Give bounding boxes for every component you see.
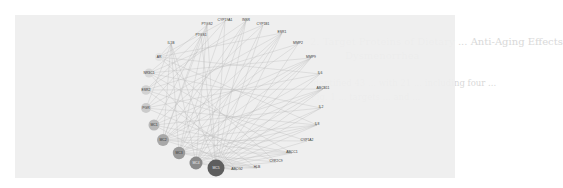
network-node-label: IL2 — [319, 105, 324, 109]
network-node-label: IL8 — [315, 122, 320, 126]
node-label: NR3C1 — [143, 71, 154, 75]
network-edge — [216, 141, 307, 168]
node-label: MC4 — [192, 161, 199, 165]
node-label: PGR — [142, 106, 150, 110]
network-edge — [179, 58, 311, 153]
network-edge — [179, 89, 323, 153]
network-edge — [216, 125, 317, 168]
network-edge — [163, 21, 246, 140]
network-edge — [146, 90, 257, 168]
network-node-label: ABCC1 — [286, 150, 297, 154]
network-node-label: IL6 — [318, 71, 323, 75]
network-node: MC3 — [173, 147, 185, 159]
network-node: PGR — [141, 103, 151, 113]
network-node-label: IL1B — [168, 41, 176, 45]
network-node-label: ABCG2 — [231, 167, 243, 171]
network-edge — [149, 58, 311, 73]
network-node-label: CYP2C9 — [269, 159, 282, 163]
network-edge — [171, 44, 196, 163]
network-node-label: MMP9 — [306, 55, 316, 59]
node-label: MC5 — [212, 166, 219, 170]
network-edge — [163, 44, 171, 140]
node-label: AR — [157, 55, 162, 59]
network-node: ESR2 — [141, 85, 151, 95]
network-node: MC5 — [208, 160, 225, 177]
network-node-label: CYP1B1 — [256, 22, 269, 26]
node-label: ESR2 — [142, 88, 151, 92]
network-edge — [146, 33, 282, 108]
network-node-label: CYP19A1 — [218, 18, 233, 22]
network-node-label: ESR1 — [278, 30, 287, 34]
network-edge — [196, 163, 257, 168]
network-node-label: PTGS1 — [195, 33, 206, 37]
network-edge — [179, 25, 207, 153]
network-node: AR — [155, 53, 163, 61]
network-node-label: HLB — [254, 165, 261, 169]
network-edge — [196, 125, 317, 163]
network-node: MC4 — [190, 157, 203, 170]
network-edge — [154, 25, 207, 125]
network-node-label: INSR — [242, 18, 251, 22]
network-edge — [196, 25, 207, 163]
network-node-label: PTGS2 — [201, 22, 212, 26]
network-node: MC2 — [157, 134, 169, 146]
node-label: MC3 — [175, 151, 182, 155]
node-label: MC2 — [159, 138, 166, 142]
node-label: MC1 — [150, 123, 157, 127]
network-edge — [159, 21, 225, 57]
network-edge — [216, 33, 282, 168]
network-edge — [163, 33, 282, 140]
network-edge — [159, 33, 282, 57]
network-node-label: CYP1A2 — [300, 138, 313, 142]
network-edge — [179, 33, 282, 153]
network-node: MC1 — [149, 120, 160, 131]
network-node-label: MMP2 — [293, 41, 303, 45]
network-node-label: ABCB11 — [317, 86, 330, 90]
